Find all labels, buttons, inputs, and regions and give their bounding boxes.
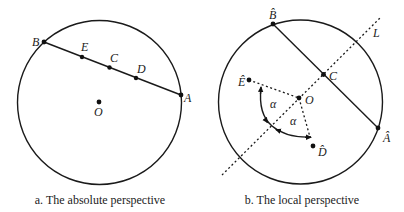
- label-e: E: [80, 40, 89, 54]
- label-c: C: [110, 51, 119, 65]
- figure: B E C D A O a. The absolute perspective …: [0, 0, 404, 212]
- label-b-hat: B̂: [269, 8, 277, 22]
- arrow-mid-left-icon: [276, 130, 281, 132]
- point-a: [179, 93, 184, 98]
- point-o: [297, 96, 302, 101]
- label-o: O: [94, 105, 103, 119]
- label-c: C: [329, 69, 338, 83]
- point-d: [134, 76, 138, 80]
- chord-ba: [44, 42, 181, 95]
- label-e-hat: Ê: [237, 75, 246, 89]
- label-a: A: [183, 91, 192, 105]
- caption-a: a. The absolute perspective: [35, 193, 165, 207]
- panel-a-absolute-perspective: B E C D A O a. The absolute perspective: [18, 21, 193, 208]
- label-alpha-2: α: [290, 114, 297, 128]
- label-alpha-1: α: [270, 97, 277, 111]
- label-a-hat: Â: [382, 131, 391, 145]
- label-d-hat: D̂: [317, 145, 327, 159]
- point-b: [42, 40, 47, 45]
- point-a-hat: [376, 126, 381, 131]
- caption-b: b. The local perspective: [245, 193, 359, 207]
- point-c: [107, 65, 111, 69]
- label-o: O: [305, 93, 314, 107]
- point-o: [97, 100, 102, 105]
- point-e-hat: [247, 78, 252, 83]
- label-b: B: [32, 35, 40, 49]
- point-e: [80, 55, 84, 59]
- circle-b: [219, 20, 383, 184]
- chord-b-hat-a-hat: [273, 24, 378, 128]
- label-d: D: [136, 62, 146, 76]
- point-b-hat: [271, 22, 276, 27]
- arrow-up-icon: [261, 87, 262, 94]
- point-c: [321, 72, 326, 77]
- panel-b-local-perspective: B̂ Â C O Ê D̂ L α α b. The local perspec…: [219, 8, 392, 207]
- point-d-hat: [311, 144, 316, 149]
- segment-o-e-hat: [249, 80, 299, 98]
- label-l: L: [372, 26, 380, 40]
